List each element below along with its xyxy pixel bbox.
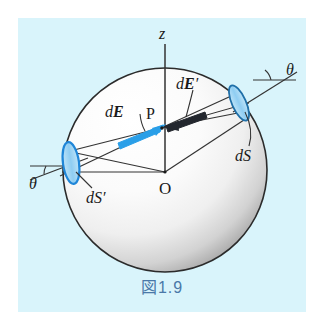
dSprime-prime-glyph: ′: [102, 189, 106, 206]
dS-d-glyph: d: [235, 147, 243, 164]
theta-right-arc: [265, 70, 271, 80]
area-dS-prime-label: dS′: [86, 190, 106, 206]
dEprime-d-glyph: d: [176, 75, 184, 92]
figure-caption: 図1.9: [0, 274, 324, 298]
point-p-marker: [160, 126, 164, 130]
origin-marker: [163, 170, 166, 173]
z-axis-label: z: [159, 26, 165, 42]
theta-right-label: θ: [286, 62, 294, 78]
dE-E-glyph: E: [113, 103, 124, 120]
dS-S-glyph: S: [243, 147, 251, 164]
dE-d-glyph: d: [105, 103, 113, 120]
field-dE-prime-label: dE′: [176, 76, 198, 92]
dEprime-prime-glyph: ′: [195, 75, 199, 92]
point-p-label: P: [146, 106, 155, 122]
dSprime-S-glyph: S: [94, 189, 102, 206]
theta-left-label: θ: [29, 176, 37, 192]
field-dE-label: dE: [105, 104, 124, 120]
figure-page: z O P dE dE′ dS dS′ θ θ 図1.9: [0, 0, 324, 328]
dEprime-E-glyph: E: [184, 75, 195, 92]
origin-label: O: [159, 180, 171, 197]
theta-left-arc: [44, 166, 46, 174]
dSprime-d-glyph: d: [86, 189, 94, 206]
area-dS-label: dS: [235, 148, 251, 164]
